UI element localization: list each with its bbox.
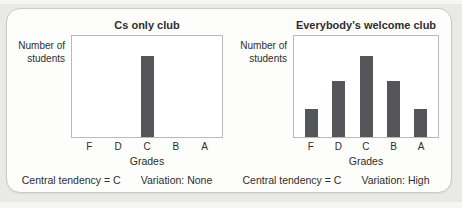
chart-title: Everybody's welcome club: [293, 19, 439, 31]
central-tendency-text: Central tendency = C: [242, 174, 341, 186]
x-tick-label-B: B: [380, 141, 408, 152]
page-bottom-strip: [0, 202, 462, 208]
plot-column: Cs only club FDCBA Grades: [71, 19, 223, 167]
bar-slot-C: [133, 36, 161, 137]
y-axis-label: Number of students: [233, 19, 293, 65]
x-tick-label-B: B: [161, 141, 190, 152]
plot-column: Everybody's welcome club FDCBA Grades: [293, 19, 439, 167]
chart-title: Cs only club: [71, 19, 223, 31]
x-tick-label-D: D: [104, 141, 133, 152]
bar-slot-F: [76, 36, 104, 137]
x-tick-label-A: A: [407, 141, 435, 152]
bar-slot-C: [352, 36, 379, 137]
central-tendency-text: Central tendency = C: [22, 174, 121, 186]
x-axis-label: Grades: [71, 155, 223, 167]
x-categories: FDCBA: [71, 141, 223, 152]
chart-panel-everybodys-welcome-club: Number of students Everybody's welcome c…: [231, 9, 451, 192]
plot-area: [293, 35, 439, 138]
bar-slot-F: [298, 36, 325, 137]
bar-B: [387, 81, 400, 137]
x-tick-label-F: F: [75, 141, 104, 152]
figure-card: Number of students Cs only club FDCBA Gr…: [6, 8, 452, 193]
x-tick-label-F: F: [297, 141, 325, 152]
x-tick-label-C: C: [133, 141, 162, 152]
plot-area: [71, 35, 223, 138]
bar-D: [332, 81, 345, 137]
x-categories: FDCBA: [293, 141, 439, 152]
bar-A: [414, 109, 427, 137]
bar-slot-B: [161, 36, 189, 137]
x-axis-label: Grades: [293, 155, 439, 167]
page-top-strip: [0, 0, 462, 4]
chart-row: Number of students Everybody's welcome c…: [233, 19, 439, 169]
bar-C: [141, 56, 154, 137]
bar-slot-A: [407, 36, 434, 137]
x-tick-label-C: C: [352, 141, 380, 152]
x-tick-label-D: D: [325, 141, 353, 152]
bar-slot-A: [190, 36, 218, 137]
bar-slot-D: [104, 36, 132, 137]
chart-footer: Central tendency = C Variation: None: [11, 174, 223, 192]
bar-slot-D: [325, 36, 352, 137]
bar-slot-B: [380, 36, 407, 137]
bar-C: [360, 56, 373, 137]
chart-footer: Central tendency = C Variation: High: [233, 174, 439, 192]
chart-panel-cs-only-club: Number of students Cs only club FDCBA Gr…: [7, 9, 231, 192]
variation-text: Variation: High: [361, 174, 429, 186]
chart-row: Number of students Cs only club FDCBA Gr…: [11, 19, 223, 169]
x-tick-label-A: A: [190, 141, 219, 152]
variation-text: Variation: None: [141, 174, 213, 186]
y-axis-label: Number of students: [11, 19, 71, 65]
bar-F: [305, 109, 318, 137]
